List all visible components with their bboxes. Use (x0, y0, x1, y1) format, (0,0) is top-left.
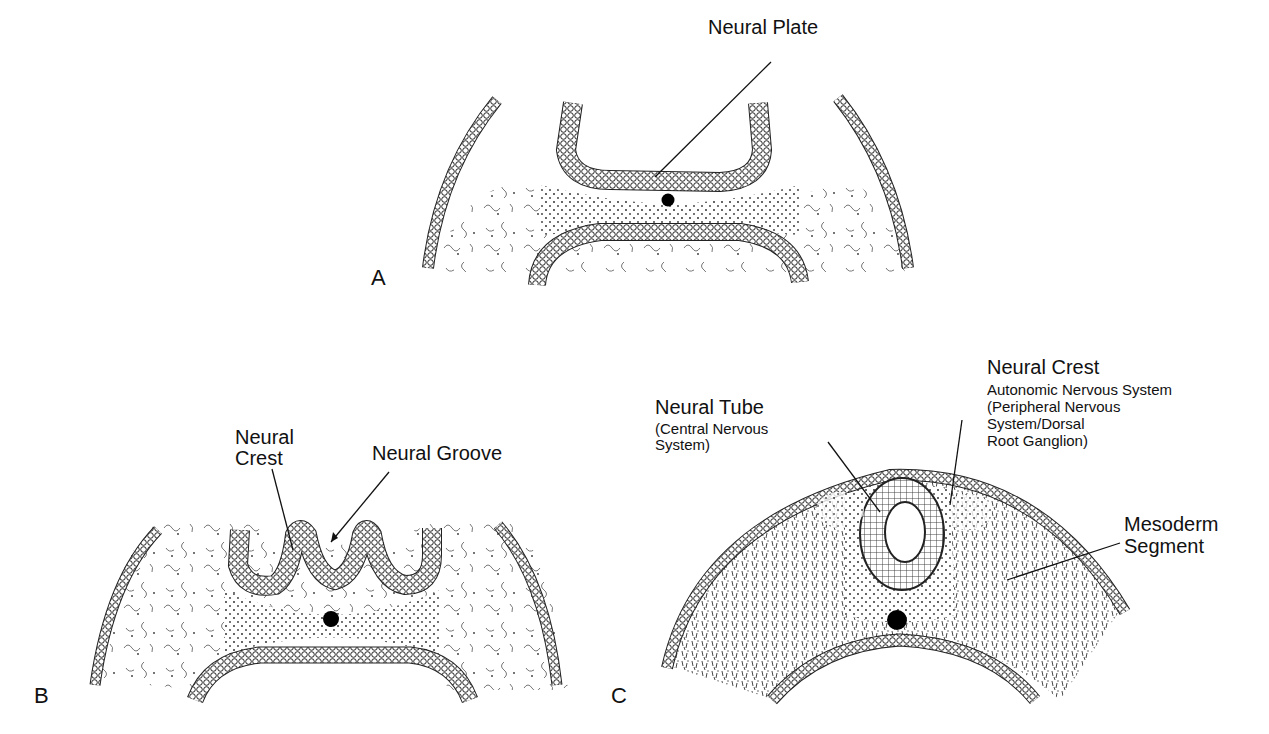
label-mesoderm-line1: Mesoderm (1124, 514, 1218, 535)
label-neural-tube-sub2: System) (655, 437, 710, 454)
label-neural-crest-sub4: Root Ganglion) (987, 433, 1088, 450)
label-mesoderm-line2: Segment (1124, 536, 1204, 557)
panel-letter-b: B (34, 684, 49, 707)
label-neural-crest-line1: Neural (235, 427, 294, 448)
panel-letter-a: A (371, 266, 386, 289)
label-neural-crest-sub3: System/Dorsal (987, 416, 1085, 433)
panel-c-drawing (667, 420, 1125, 700)
label-neural-groove: Neural Groove (372, 443, 502, 464)
label-neural-crest-sub2: (Peripheral Nervous (987, 399, 1120, 416)
label-neural-crest-c: Neural Crest (987, 357, 1099, 378)
panel-letter-c: C (611, 684, 627, 707)
label-neural-crest-sub1: Autonomic Nervous System (987, 382, 1172, 399)
label-neural-crest-line2: Crest (235, 448, 283, 469)
panel-a-drawing (428, 62, 908, 285)
label-neural-plate: Neural Plate (708, 17, 818, 38)
label-neural-tube: Neural Tube (655, 397, 764, 418)
panel-b-drawing (95, 469, 568, 700)
